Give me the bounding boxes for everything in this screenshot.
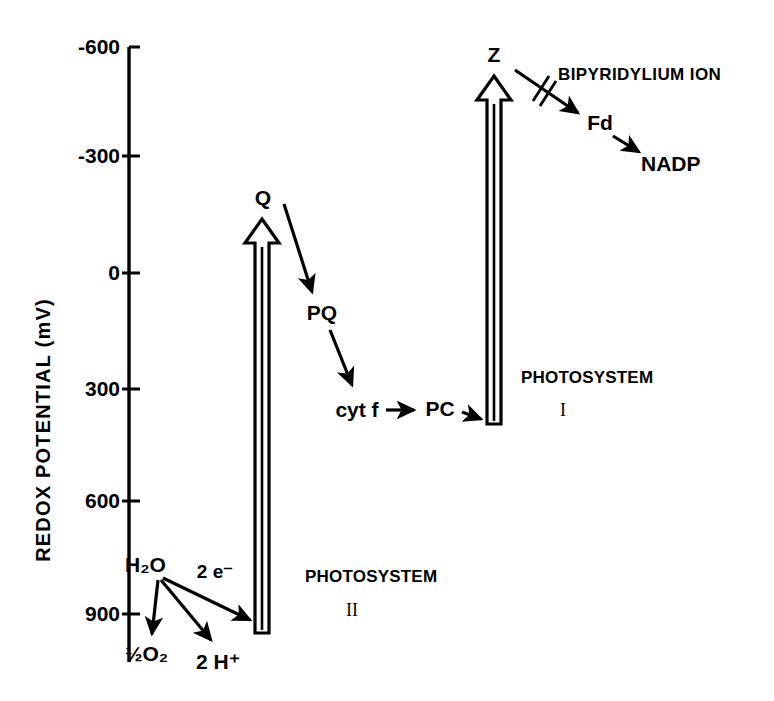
label-q: Q — [255, 186, 271, 209]
psi-label-line1: PHOTOSYSTEM — [521, 368, 653, 387]
label-z: Z — [488, 43, 501, 66]
axis-tick-label: -300 — [78, 144, 120, 167]
axis-title-group: REDOX POTENTIAL (mV) — [32, 298, 54, 562]
canvas-background — [0, 0, 774, 701]
label-pq: PQ — [307, 301, 337, 324]
label-nadp: NADP — [641, 152, 701, 175]
label-two-protons: 2 H⁺ — [196, 650, 240, 673]
axis-tick-label: 600 — [85, 489, 120, 512]
label-two-electrons: 2 e⁻ — [197, 561, 233, 582]
label-cyt-f: cyt f — [335, 398, 379, 421]
axis-tick-label: 900 — [85, 602, 120, 625]
psii-label-line1: PHOTOSYSTEM — [305, 567, 437, 586]
psii-label-line2: II — [346, 600, 358, 620]
diagram-canvas: -600 -300 0 300 600 900 REDOX POTENTIAL … — [0, 0, 774, 701]
axis-tick-label: 0 — [108, 261, 120, 284]
label-bipyridylium-ion: BIPYRIDYLIUM ION — [558, 65, 721, 84]
label-half-oxygen: ½O₂ — [125, 642, 168, 665]
psi-label-line2: I — [560, 400, 566, 420]
label-h2o: H₂O — [125, 553, 166, 576]
axis-title: REDOX POTENTIAL (mV) — [32, 298, 54, 562]
label-fd: Fd — [587, 111, 613, 134]
z-scheme-diagram: -600 -300 0 300 600 900 REDOX POTENTIAL … — [0, 0, 774, 701]
axis-tick-label: -600 — [78, 35, 120, 58]
label-pc: PC — [425, 397, 454, 420]
axis-tick-label: 300 — [85, 377, 120, 400]
